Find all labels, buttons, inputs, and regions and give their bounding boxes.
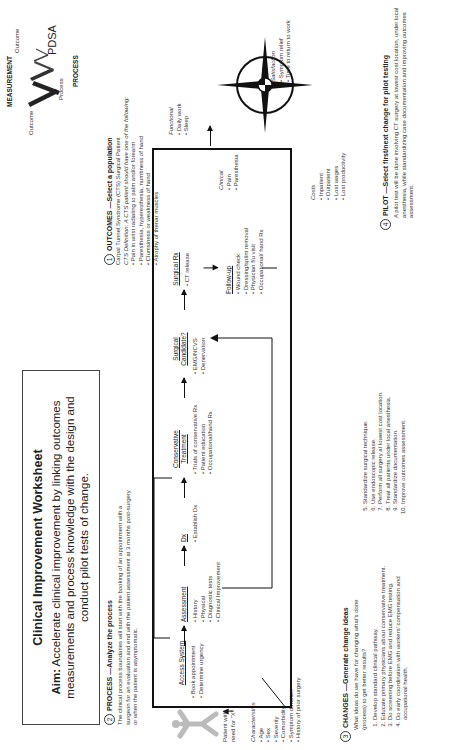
compass-item: Lost productivity: [340, 130, 348, 200]
pdsa-arrows-icon: [20, 25, 70, 125]
feedback-loops: [152, 148, 292, 708]
change-idea: Educate primary physicians about conserv…: [380, 555, 388, 720]
worksheet-page: Clinical Improvement Worksheet Aim: Acce…: [0, 0, 474, 750]
compass-item: Sleep: [183, 75, 191, 135]
compass-label: Clinical: [218, 130, 226, 190]
change-idea: Treat all patients under local anesthesi…: [385, 324, 393, 504]
criteria-item: Paresthesia, hyperesthesia, numbness of …: [138, 5, 146, 265]
patient-need-label: Patient with need for "X": [222, 702, 237, 742]
section-number: 4: [380, 219, 391, 230]
compass-clinical: Clinical Pain Paresthesia: [218, 130, 241, 190]
compass-item: Inpatient: [318, 130, 326, 200]
compass-costs: Costs Inpatient Outpatient Lost wages Lo…: [310, 130, 348, 200]
aim-statement: Aim: Accelerate clinical improvement by …: [49, 371, 91, 724]
compass-item: Pain: [226, 130, 234, 190]
arrow-icon: [210, 126, 211, 146]
criteria-item: Pain in wrist radiating to palm and/or f…: [130, 5, 138, 265]
compass-label: Functional: [168, 75, 176, 135]
change-idea: Perform all surgery at lowest cost locat…: [377, 324, 385, 504]
change-idea: Do screening before EMG and reduce EMG t…: [387, 555, 395, 720]
process-text: The clinical process boundaries will sta…: [117, 485, 140, 725]
changes-question: What ideas do we have for changing what'…: [353, 580, 368, 730]
section-number: 2: [104, 714, 115, 725]
compass-label: Satisfaction: [270, 12, 278, 82]
change-idea: Use endoscopic release.: [370, 324, 378, 504]
compass-functional: Functional Daily work Sleep: [168, 75, 191, 135]
compass-satisfaction: Satisfaction Symptom relief Time to retu…: [270, 12, 293, 82]
change-ideas-list-continued: Standardize surgical technique. Use endo…: [362, 324, 407, 520]
section-number: 1: [104, 254, 115, 265]
change-idea: Do early coordination with workers' comp…: [395, 555, 410, 720]
outcomes-definition: CTS Definition: A CTS patient should hav…: [123, 5, 131, 265]
section-number: 3: [340, 731, 351, 742]
aim-text: Accelerate clinical improvement by linki…: [50, 396, 90, 698]
title-box: Clinical Improvement Worksheet Aim: Acce…: [22, 370, 100, 725]
process-label: Process: [58, 78, 66, 100]
outcomes-heading: 1 OUTCOMES —Select a population: [104, 5, 115, 265]
change-idea: Standardize documentation.: [392, 324, 400, 504]
process-heading: 2 PROCESS —Analyze the process: [104, 485, 115, 725]
compass-item: Time to return to work: [285, 12, 293, 82]
page-title: Clinical Improvement Worksheet: [31, 371, 45, 724]
patient-figure-icon: [170, 706, 220, 742]
measurement-label: MEASUREMENT: [6, 56, 13, 107]
process-diagram-label: PROCESS: [72, 55, 79, 87]
compass-item: Lost wages: [333, 130, 341, 200]
compass-item: Outpatient: [325, 130, 333, 200]
process-section: 2 PROCESS —Analyze the process The clini…: [104, 485, 140, 725]
pdsa-label: PDSA: [46, 25, 58, 55]
value-compass-icon: [215, 35, 315, 135]
changes-section: 3 CHANGES —Generate change ideas What id…: [340, 502, 410, 742]
outcome-right-label: Outcome: [14, 29, 22, 53]
compass-item: Daily work: [176, 75, 184, 135]
compass-item: Symptom relief: [278, 12, 286, 82]
change-ideas-list: Develop standard clinical pathway. Educa…: [372, 555, 410, 742]
change-idea: Improve outcomes assessment.: [400, 324, 408, 504]
aim-label: Aim:: [50, 669, 62, 695]
characteristic-item: History of prior surgery: [295, 672, 303, 742]
change-idea: Standardize surgical technique.: [362, 324, 370, 504]
pilot-text: A pilot test will be done involving CT s…: [393, 5, 416, 230]
outcomes-population: Carpal Tunnel Syndrome (CTS) Surgical Pa…: [115, 5, 123, 265]
measurement-diagram: MEASUREMENT Outcome Process Outcome PDSA…: [6, 10, 106, 135]
change-idea: Develop standard clinical pathway.: [372, 555, 380, 720]
compass-item: Paresthesia: [233, 130, 241, 190]
pilot-heading: 4 PILOT —Select first/next change for pi…: [380, 5, 391, 230]
changes-heading: 3 CHANGES —Generate change ideas: [340, 502, 351, 742]
compass-label: Costs: [310, 130, 318, 200]
pilot-section: 4 PILOT —Select first/next change for pi…: [380, 5, 416, 230]
